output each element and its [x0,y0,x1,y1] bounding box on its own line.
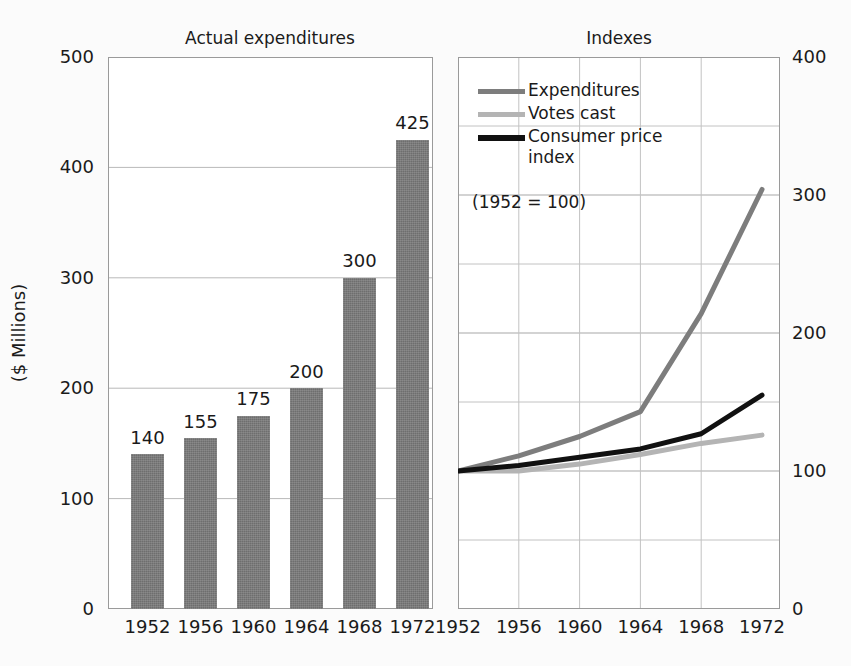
legend-label-expenditures: Expenditures [528,80,640,102]
left-y-tick-200: 200 [48,379,94,397]
legend-item-expenditures: Expenditures [478,80,662,102]
bar-1960 [237,416,270,609]
right-panel-title: Indexes [458,28,780,48]
bar-label-1968: 300 [342,252,376,270]
figure-canvas: Actual expenditures ($ Millions) 0 100 2… [0,0,851,666]
legend-label-votes-cast: Votes cast [528,103,615,125]
right-y-tick-100: 100 [792,462,826,480]
left-y-tick-500: 500 [48,48,94,66]
right-x-tick-1952: 1952 [435,618,481,636]
left-y-tick-400: 400 [48,158,94,176]
bar-label-1956: 155 [183,413,217,431]
bar-label-1960: 175 [236,390,270,408]
bar-label-1972: 425 [395,114,429,132]
right-x-tick-1968: 1968 [678,618,724,636]
left-x-tick-1956: 1956 [178,618,224,636]
bar-1952 [131,454,164,609]
legend-label-consumer-price-index: Consumer price index [528,126,662,170]
left-x-tick-1972: 1972 [390,618,436,636]
bar-1968 [343,278,376,609]
right-panel-legend: Expenditures Votes cast Consumer price i… [478,80,662,170]
right-x-tick-1956: 1956 [496,618,542,636]
right-x-tick-1964: 1964 [617,618,663,636]
left-x-tick-1952: 1952 [125,618,171,636]
legend-swatch-votes-cast [478,112,525,117]
left-y-tick-300: 300 [48,269,94,287]
left-x-tick-1968: 1968 [337,618,383,636]
left-y-tick-100: 100 [48,490,94,508]
left-panel-y-axis-label: ($ Millions) [8,284,29,383]
bar-label-1952: 140 [130,429,164,447]
left-y-tick-0: 0 [48,600,94,618]
legend-swatch-consumer-price-index [478,135,525,141]
legend-item-consumer-price-index: Consumer price index [478,126,662,170]
right-y-tick-400: 400 [792,48,826,66]
legend-swatch-expenditures [478,89,525,94]
right-y-tick-200: 200 [792,324,826,342]
left-x-tick-1964: 1964 [284,618,330,636]
left-x-tick-1960: 1960 [231,618,277,636]
right-y-tick-0: 0 [792,600,803,618]
right-panel-base-note: (1952 = 100) [472,192,586,212]
bar-1972 [396,140,429,609]
right-y-tick-300: 300 [792,186,826,204]
right-x-tick-1960: 1960 [557,618,603,636]
right-x-tick-1972: 1972 [739,618,785,636]
legend-item-votes-cast: Votes cast [478,103,662,125]
left-panel-title: Actual expenditures [108,28,432,48]
bar-label-1964: 200 [289,363,323,381]
bar-1964 [290,388,323,609]
bar-1956 [184,438,217,609]
